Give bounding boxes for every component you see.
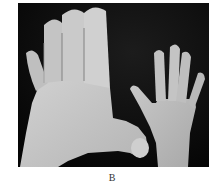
enlarged-hand-finger-middle <box>62 9 84 81</box>
panel-label: B <box>0 172 224 183</box>
enlarged-hand-finger-index <box>84 7 110 88</box>
enlarged-hand-thumb-tip <box>131 138 149 158</box>
enlarged-hand-finger-ring <box>44 19 62 83</box>
clinical-photo <box>18 3 209 167</box>
